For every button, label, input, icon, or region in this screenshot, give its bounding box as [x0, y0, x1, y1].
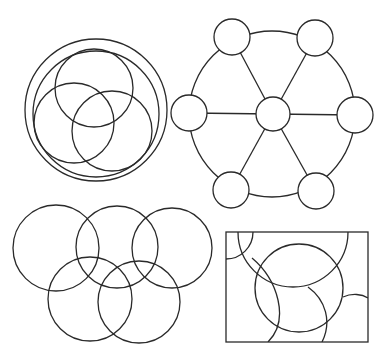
interlocking-rings-figure — [13, 205, 212, 343]
ring-3 — [48, 257, 132, 341]
hexagon-wheel-figure — [171, 19, 373, 209]
outer-node-4 — [213, 172, 249, 208]
ring-2 — [132, 208, 212, 288]
outer-node-3 — [337, 97, 373, 133]
outer-node-1 — [297, 20, 333, 56]
right-inner-arc — [308, 287, 327, 342]
center-circle — [255, 244, 343, 332]
inner-circle-2 — [72, 91, 152, 171]
inner-circle-1 — [34, 83, 114, 163]
diagram-svg — [0, 0, 388, 362]
nested-circles-figure — [25, 39, 167, 181]
right-edge-arc — [343, 294, 368, 298]
outer-node-0 — [214, 19, 250, 55]
diagram-canvas — [0, 0, 388, 362]
ring-0 — [13, 205, 99, 291]
outer-node-5 — [298, 173, 334, 209]
center-node — [256, 97, 290, 131]
ring-4 — [98, 261, 180, 343]
outer-node-2 — [171, 95, 207, 131]
outer-ring-1 — [33, 51, 159, 177]
